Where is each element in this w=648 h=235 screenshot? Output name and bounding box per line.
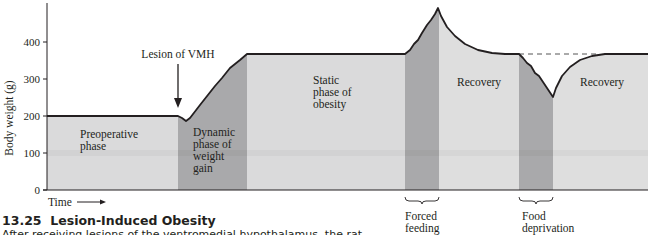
phase-recovery-2 [553,0,648,190]
phase-recovery-1 [439,0,519,190]
preoperative-label-2: phase [80,140,106,153]
y-axis-label: Body weight (g) [3,80,16,156]
x-axis-label: Time [48,196,72,208]
forced-feeding-label-1: Forced [405,210,437,222]
dynamic-label-4: gain [193,162,213,175]
tick-400: 400 [24,36,41,48]
tick-100: 100 [24,147,41,159]
food-deprivation-label-2: deprivation [522,222,575,235]
lesion-arrow-icon [174,64,182,108]
tick-0: 0 [35,184,41,196]
phase-food-deprivation [519,0,553,190]
phase-preoperative [47,0,178,190]
food-deprivation-brace-icon [519,197,553,204]
figure-caption-title: 13.25 Lesion-Induced Obesity [2,213,216,228]
figure-title: Lesion-Induced Obesity [50,213,215,228]
y-tick-labels: 0 100 200 300 400 [24,36,41,196]
recovery-label-2: Recovery [580,76,624,89]
static-label-1: Static [313,74,339,86]
figure-number: 13.25 [2,213,42,228]
forced-feeding-label-2: feeding [405,222,440,235]
phase-forced-feeding [405,0,439,190]
y-ticks [43,42,47,190]
lesion-label: Lesion of VMH [141,48,214,60]
forced-feeding-brace-icon [405,197,439,204]
figure-caption-body: After receiving lesions of the ventromed… [2,228,372,235]
lesion-obesity-chart: 0 100 200 300 400 Body weight (g) Time L… [0,0,648,235]
recovery-label-1: Recovery [457,76,501,89]
time-arrow-icon [77,200,106,205]
food-deprivation-label-1: Food [522,210,546,222]
tick-300: 300 [24,73,41,85]
tick-200: 200 [24,110,41,122]
static-label-3: obesity [313,98,346,111]
